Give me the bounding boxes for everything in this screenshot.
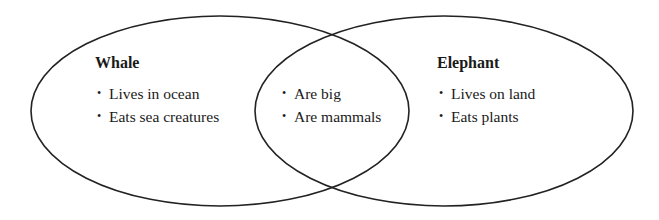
item-label: Lives in ocean [109, 85, 199, 102]
item-label: Are mammals [294, 108, 381, 125]
bullet-icon: • [282, 109, 294, 124]
overlap-item: •Are big [282, 85, 341, 103]
whale-title: Whale [95, 54, 139, 72]
item-label: Are big [294, 85, 341, 102]
elephant-title: Elephant [437, 54, 499, 72]
bullet-icon: • [282, 86, 294, 101]
elephant-item: •Lives on land [439, 85, 535, 103]
elephant-item: •Eats plants [439, 108, 519, 126]
item-label: Eats plants [451, 108, 519, 125]
item-label: Lives on land [451, 85, 535, 102]
bullet-icon: • [97, 109, 109, 124]
whale-item: •Lives in ocean [97, 85, 199, 103]
bullet-icon: • [97, 86, 109, 101]
bullet-icon: • [439, 109, 451, 124]
bullet-icon: • [439, 86, 451, 101]
item-label: Eats sea creatures [109, 108, 219, 125]
whale-item: •Eats sea creatures [97, 108, 219, 126]
overlap-item: •Are mammals [282, 108, 381, 126]
